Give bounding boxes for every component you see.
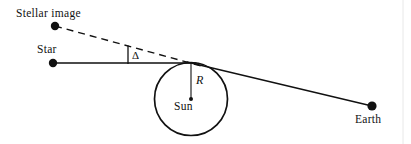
stellar-image-dot — [51, 22, 59, 30]
figure-root: Stellar image Star Δ R Sun Earth — [0, 0, 411, 144]
radius-label: R — [196, 74, 203, 86]
earth-ray-line — [187, 62, 372, 106]
earth-dot — [367, 101, 376, 110]
star-label: Star — [37, 44, 57, 56]
deflection-diagram — [0, 0, 411, 144]
star-dot — [49, 59, 57, 67]
earth-label: Earth — [355, 114, 381, 126]
sun-label: Sun — [174, 101, 193, 113]
apparent-ray-dashed-line — [55, 26, 205, 67]
stellar-image-label: Stellar image — [16, 8, 81, 20]
deflection-angle-label: Δ — [132, 50, 139, 61]
